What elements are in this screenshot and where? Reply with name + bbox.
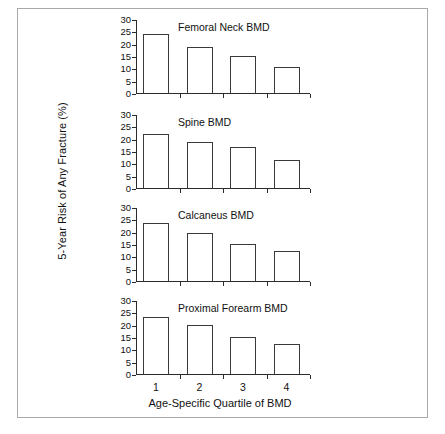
chart-panel: Calcaneus BMD051015202530 xyxy=(100,208,340,294)
x-tick-mark xyxy=(223,375,224,379)
y-tick-label: 10 xyxy=(120,63,131,74)
bar xyxy=(187,47,213,93)
bar xyxy=(274,160,300,188)
chart-panel: Spine BMD051015202530 xyxy=(100,115,340,201)
y-tick-label: 0 xyxy=(126,88,131,99)
x-tick-mark xyxy=(310,282,311,286)
y-tick-label: 25 xyxy=(120,307,131,318)
y-tick-mark xyxy=(132,313,136,314)
y-tick-label: 30 xyxy=(120,14,131,25)
y-tick-label: 10 xyxy=(120,344,131,355)
plot-area: 051015202530 xyxy=(136,115,310,189)
y-tick-mark xyxy=(132,164,136,165)
y-tick-label: 25 xyxy=(120,121,131,132)
y-tick-label: 15 xyxy=(120,146,131,157)
plot-area: 051015202530 xyxy=(136,208,310,282)
y-tick-label: 30 xyxy=(120,202,131,213)
bar xyxy=(143,223,169,281)
y-tick-mark xyxy=(132,177,136,178)
y-tick-mark xyxy=(132,350,136,351)
y-tick-mark xyxy=(132,270,136,271)
x-tick-mark xyxy=(180,282,181,286)
bar xyxy=(187,142,213,188)
y-tick-mark xyxy=(132,69,136,70)
y-tick-label: 10 xyxy=(120,251,131,262)
y-tick-label: 20 xyxy=(120,39,131,50)
y-tick-label: 20 xyxy=(120,320,131,331)
y-axis-line xyxy=(136,301,137,375)
y-tick-label: 5 xyxy=(126,264,131,275)
y-tick-label: 20 xyxy=(120,227,131,238)
y-tick-mark xyxy=(132,363,136,364)
x-tick-mark xyxy=(267,375,268,379)
y-tick-label: 20 xyxy=(120,134,131,145)
y-tick-label: 15 xyxy=(120,332,131,343)
bar xyxy=(143,134,169,188)
x-tick-mark xyxy=(223,94,224,98)
y-tick-mark xyxy=(132,375,136,376)
bar xyxy=(274,344,300,374)
y-tick-mark xyxy=(132,20,136,21)
x-tick-mark xyxy=(223,189,224,193)
y-tick-label: 0 xyxy=(126,369,131,380)
y-tick-mark xyxy=(132,32,136,33)
y-tick-label: 25 xyxy=(120,26,131,37)
y-tick-label: 30 xyxy=(120,295,131,306)
y-tick-label: 15 xyxy=(120,239,131,250)
plot-area: 051015202530 xyxy=(136,301,310,375)
y-tick-mark xyxy=(132,282,136,283)
y-tick-mark xyxy=(132,140,136,141)
y-tick-label: 15 xyxy=(120,51,131,62)
y-tick-label: 0 xyxy=(126,276,131,287)
x-tick-mark xyxy=(267,94,268,98)
bar xyxy=(230,244,256,281)
y-tick-label: 30 xyxy=(120,109,131,120)
y-tick-mark xyxy=(132,127,136,128)
x-tick-label: 3 xyxy=(240,381,246,393)
y-tick-mark xyxy=(132,115,136,116)
bar xyxy=(274,251,300,281)
x-tick-mark xyxy=(310,189,311,193)
bar xyxy=(187,325,213,374)
y-tick-mark xyxy=(132,220,136,221)
bar xyxy=(143,317,169,374)
y-tick-label: 5 xyxy=(126,76,131,87)
bar xyxy=(230,147,256,188)
y-tick-label: 0 xyxy=(126,183,131,194)
chart-panel: Proximal Forearm BMD051015202530 xyxy=(100,301,340,387)
x-tick-mark xyxy=(180,94,181,98)
bar xyxy=(230,337,256,374)
y-tick-mark xyxy=(132,45,136,46)
y-tick-mark xyxy=(132,301,136,302)
y-tick-label: 5 xyxy=(126,171,131,182)
x-tick-label: 4 xyxy=(284,381,290,393)
x-axis-title: Age-Specific Quartile of BMD xyxy=(100,397,340,409)
figure: 5-Year Risk of Any Fracture (%) Femoral … xyxy=(0,0,445,434)
y-tick-mark xyxy=(132,82,136,83)
plot-area: 051015202530 xyxy=(136,20,310,94)
x-tick-label: 1 xyxy=(153,381,159,393)
y-tick-label: 10 xyxy=(120,158,131,169)
y-tick-mark xyxy=(132,94,136,95)
x-tick-mark xyxy=(223,282,224,286)
y-tick-label: 5 xyxy=(126,357,131,368)
y-tick-mark xyxy=(132,245,136,246)
y-tick-mark xyxy=(132,57,136,58)
y-tick-mark xyxy=(132,338,136,339)
y-axis-line xyxy=(136,20,137,94)
y-tick-mark xyxy=(132,189,136,190)
x-tick-mark xyxy=(267,189,268,193)
chart-panel: Femoral Neck BMD051015202530 xyxy=(100,20,340,106)
y-tick-mark xyxy=(132,233,136,234)
y-tick-mark xyxy=(132,208,136,209)
x-tick-label: 2 xyxy=(197,381,203,393)
y-axis-line xyxy=(136,208,137,282)
y-tick-label: 25 xyxy=(120,214,131,225)
bar xyxy=(187,233,213,281)
bar xyxy=(230,56,256,93)
y-tick-mark xyxy=(132,257,136,258)
x-tick-mark xyxy=(180,375,181,379)
y-axis-line xyxy=(136,115,137,189)
x-tick-mark xyxy=(267,282,268,286)
x-tick-mark xyxy=(180,189,181,193)
